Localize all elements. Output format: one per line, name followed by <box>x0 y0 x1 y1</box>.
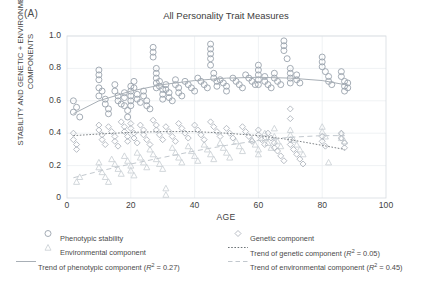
data-point <box>109 156 115 162</box>
series-genetic-component <box>70 106 347 167</box>
data-point <box>214 129 220 135</box>
data-point <box>105 124 111 130</box>
data-point <box>224 125 230 131</box>
data-point <box>102 142 108 148</box>
data-point <box>208 62 214 68</box>
data-point <box>115 143 121 149</box>
data-point <box>169 145 175 151</box>
gridlines <box>67 36 386 198</box>
legend-label: Trend of environmental component (R2 = 0… <box>250 262 403 272</box>
data-point <box>160 137 166 143</box>
data-point <box>131 78 137 84</box>
legend-label: Phenotypic stability <box>60 234 123 243</box>
data-point <box>134 150 140 156</box>
data-point <box>287 106 293 112</box>
data-point <box>217 133 223 139</box>
data-point <box>137 122 143 128</box>
data-point <box>278 153 284 159</box>
data-point <box>185 135 191 141</box>
legend-label: Genetic component <box>250 234 314 243</box>
legend-label: Trend of phenotypic component (R2 = 0.27… <box>38 262 180 272</box>
data-point <box>169 133 175 139</box>
data-point <box>118 119 124 125</box>
data-point <box>287 116 293 122</box>
data-points-layer <box>70 38 350 197</box>
data-point <box>284 56 290 62</box>
data-point <box>243 129 249 135</box>
data-point <box>172 138 178 144</box>
trend-line <box>73 77 344 113</box>
data-point <box>281 158 287 164</box>
data-point <box>326 159 332 165</box>
data-point <box>211 124 217 130</box>
data-point <box>112 82 118 88</box>
data-point <box>144 137 150 143</box>
data-point <box>185 143 191 149</box>
chart-legend: Phenotypic stabilityGenetic componentEnv… <box>0 228 423 284</box>
data-point <box>125 114 131 120</box>
data-point <box>70 137 76 143</box>
data-point <box>233 138 239 144</box>
plot-frame <box>67 36 386 198</box>
series-environmental-component <box>74 124 348 198</box>
data-point <box>163 124 169 130</box>
data-point <box>176 120 182 126</box>
data-point <box>150 117 156 123</box>
data-point <box>217 140 223 146</box>
data-point <box>74 104 80 110</box>
figure-panel-a: (A) All Personality Trait Measures STABI… <box>0 0 423 288</box>
data-point <box>271 125 277 131</box>
data-point <box>121 153 127 159</box>
data-point <box>163 192 169 198</box>
data-point <box>163 185 169 191</box>
data-point <box>134 140 140 146</box>
data-point <box>342 138 348 144</box>
data-point <box>157 132 163 138</box>
data-point <box>239 124 245 130</box>
data-point <box>198 132 204 138</box>
legend-label: Environmental component <box>60 248 146 257</box>
data-point <box>300 161 306 167</box>
data-point <box>208 119 214 125</box>
data-point <box>77 114 83 120</box>
data-point <box>179 125 185 131</box>
legend-label: Trend of genetic component (R2 = 0.05) <box>250 248 380 258</box>
